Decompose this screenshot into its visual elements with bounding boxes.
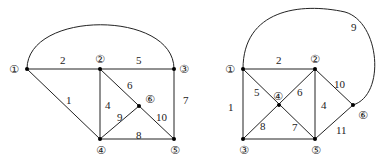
node-3 [241,137,245,141]
node-1 [241,67,245,71]
edge-label: 4 [105,99,111,111]
node-2 [98,67,102,71]
edge-label: 7 [183,94,189,106]
edge-label: 9 [117,111,123,123]
node-label: ① [225,63,235,76]
node-label: ④ [96,144,106,157]
edge-label: 11 [336,124,347,136]
node-label: ④ [273,90,283,103]
node-label: ③ [239,144,249,157]
node-2 [313,67,317,71]
node-label: ⑤ [170,144,180,157]
node-6 [137,104,141,108]
node-4 [98,137,102,141]
edge-label: 6 [297,86,303,98]
node-1 [25,67,29,71]
node-label: ⑤ [311,144,321,157]
node-5 [172,137,176,141]
node-label: ② [95,53,105,66]
node-label: ① [9,63,19,76]
edge-label: 1 [66,94,72,106]
edge-label: 10 [334,78,346,90]
node-3 [172,67,176,71]
edge-label: 4 [321,99,327,111]
edge-label: 8 [136,129,142,141]
edge-label: 2 [276,54,282,66]
node-label: ⑥ [145,93,155,106]
node-label: ⑥ [358,109,368,122]
edge-label: 10 [156,111,168,123]
edge-label: 5 [136,54,142,66]
edge-label: 5 [254,86,260,98]
edge-label: 7 [292,121,298,133]
edge-label: 6 [127,79,133,91]
edge-1-4 [27,69,100,139]
node-4 [277,103,281,107]
graph-diagrams: ① ② ③ ④ ⑤ ⑥ 1 2 4 5 6 7 8 9 10 ① ② ③ ④ [0,0,389,166]
node-5 [313,137,317,141]
node-6 [351,103,355,107]
edge-label: 9 [351,21,357,33]
right-graph: ① ② ③ ④ ⑤ ⑥ 1 2 4 5 6 7 8 9 10 11 [225,8,375,157]
node-label: ③ [179,63,189,76]
edge-label: 8 [260,120,266,132]
edge-label: 1 [228,101,234,113]
node-label: ② [310,53,320,66]
edge-label: 2 [60,54,66,66]
left-graph: ① ② ③ ④ ⑤ ⑥ 1 2 4 5 6 7 8 9 10 [9,25,189,157]
